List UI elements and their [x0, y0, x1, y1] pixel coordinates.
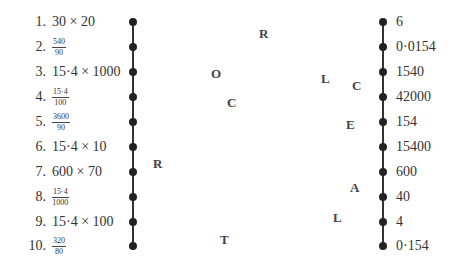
right-dot-1[interactable]	[379, 18, 387, 26]
puzzle-letter: E	[346, 118, 355, 131]
question-fraction: 320 80	[52, 237, 66, 256]
question-fraction: 15·4 1000	[52, 188, 69, 207]
answer-value: 42000	[396, 90, 431, 104]
answer-value: 40	[396, 190, 410, 204]
right-dot-6[interactable]	[379, 143, 387, 151]
answer-value: 6	[396, 15, 403, 29]
question-number: 8.	[20, 190, 46, 204]
answer-value: 1540	[396, 65, 424, 79]
left-dot-6[interactable]	[129, 143, 137, 151]
puzzle-letter: L	[321, 72, 330, 85]
numerator: 320	[52, 237, 66, 247]
answer-value: 600	[396, 165, 417, 179]
right-dot-8[interactable]	[379, 193, 387, 201]
question-fraction: 540 90	[52, 38, 66, 57]
left-dot-9[interactable]	[129, 218, 137, 226]
denominator: 90	[57, 123, 65, 132]
numerator: 3600	[52, 113, 70, 123]
left-dot-1[interactable]	[129, 18, 137, 26]
puzzle-letter: R	[153, 157, 162, 170]
puzzle-letter: L	[333, 211, 342, 224]
right-dot-2[interactable]	[379, 43, 387, 51]
left-dot-7[interactable]	[129, 168, 137, 176]
denominator: 90	[55, 48, 63, 57]
denominator: 100	[54, 98, 66, 107]
question-number: 3.	[20, 65, 46, 79]
question-fraction: 3600 90	[52, 113, 70, 132]
question-number: 6.	[20, 140, 46, 154]
question-number: 10.	[20, 239, 46, 253]
answer-value: 4	[396, 215, 403, 229]
question-number: 2.	[20, 40, 46, 54]
left-dot-4[interactable]	[129, 93, 137, 101]
question-expression: 15·4 × 1000	[52, 65, 121, 79]
question-number: 1.	[20, 15, 46, 29]
left-dot-10[interactable]	[129, 242, 137, 250]
numerator: 15·4	[52, 88, 69, 98]
question-number: 9.	[20, 215, 46, 229]
right-dot-3[interactable]	[379, 68, 387, 76]
numerator: 15·4	[52, 188, 69, 198]
puzzle-letter: A	[350, 181, 359, 194]
answer-value: 0·154	[396, 239, 429, 253]
question-fraction: 15·4 100	[52, 88, 69, 107]
answer-value: 0·0154	[396, 40, 436, 54]
left-dot-3[interactable]	[129, 68, 137, 76]
question-expression: 30 × 20	[52, 15, 95, 29]
left-connector-line	[132, 22, 134, 246]
numerator: 540	[52, 38, 66, 48]
puzzle-letter: O	[211, 67, 221, 80]
left-dot-2[interactable]	[129, 43, 137, 51]
right-dot-4[interactable]	[379, 93, 387, 101]
question-expression: 15·4 × 10	[52, 140, 107, 154]
puzzle-letter: R	[259, 27, 268, 40]
right-dot-10[interactable]	[379, 242, 387, 250]
answer-value: 154	[396, 115, 417, 129]
denominator: 80	[55, 247, 63, 256]
answer-value: 15400	[396, 140, 431, 154]
right-dot-9[interactable]	[379, 218, 387, 226]
question-number: 7.	[20, 165, 46, 179]
denominator: 1000	[52, 198, 68, 207]
right-dot-7[interactable]	[379, 168, 387, 176]
puzzle-letter: T	[220, 233, 229, 246]
right-connector-line	[382, 22, 384, 246]
left-dot-8[interactable]	[129, 193, 137, 201]
left-dot-5[interactable]	[129, 118, 137, 126]
question-expression: 600 × 70	[52, 165, 102, 179]
right-dot-5[interactable]	[379, 118, 387, 126]
puzzle-letter: C	[352, 79, 361, 92]
question-number: 4.	[20, 90, 46, 104]
question-expression: 15·4 × 100	[52, 215, 114, 229]
question-number: 5.	[20, 115, 46, 129]
puzzle-letter: C	[227, 96, 236, 109]
